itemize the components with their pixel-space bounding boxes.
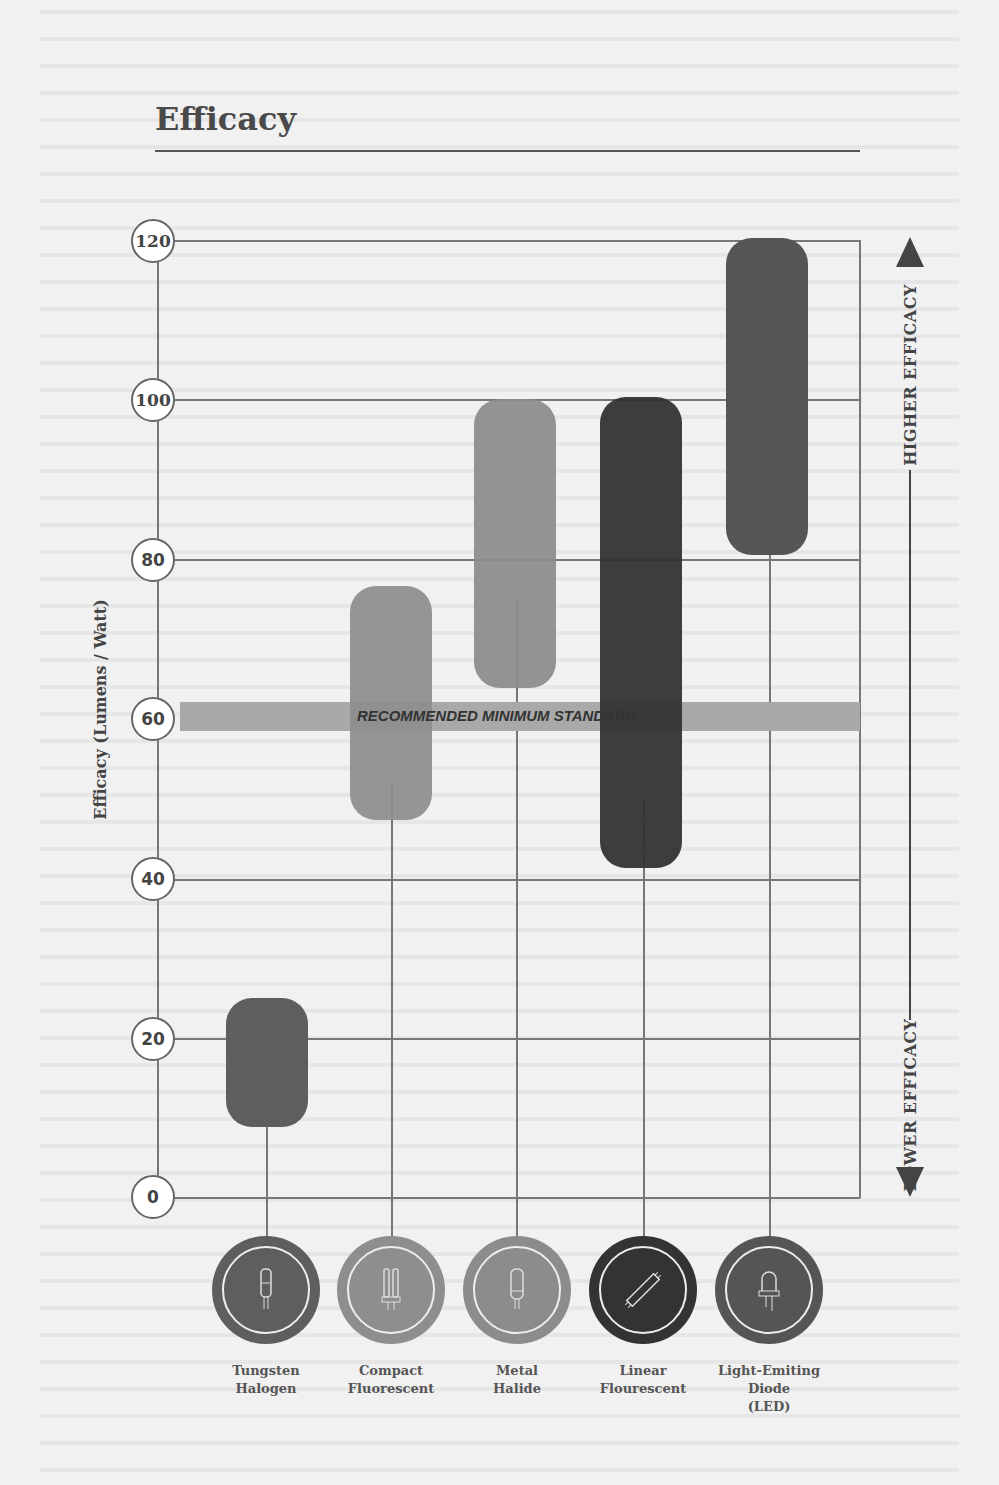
y-tick-60: 60: [131, 697, 175, 741]
bar-led: [726, 238, 808, 555]
y-tick-0: 0: [131, 1175, 175, 1219]
higher-efficacy-label: HIGHER EFFICACY: [901, 284, 920, 466]
page-title: Efficacy: [155, 100, 296, 138]
y-axis-label: Efficacy (Lumens / Watt): [91, 590, 110, 830]
category-line-3: [516, 600, 518, 1245]
category-line-5: [769, 500, 771, 1245]
title-divider: [155, 150, 860, 152]
efficacy-scale-line: [909, 470, 911, 1020]
y-tick-120: 120: [131, 219, 175, 263]
y-tick-100: 100: [131, 378, 175, 422]
bar-compact-fluorescent: [350, 586, 432, 820]
y-tick-80: 80: [131, 538, 175, 582]
halogen-bulb-icon: [212, 1236, 320, 1344]
category-label-metal-halide: MetalHalide: [447, 1362, 587, 1398]
fluorescent-tube-icon: [589, 1236, 697, 1344]
category-line-2: [391, 780, 393, 1245]
category-label-tungsten-halogen: TungstenHalogen: [196, 1362, 336, 1398]
bar-tungsten-halogen: [226, 998, 308, 1127]
bar-metal-halide: [474, 399, 556, 688]
arrow-down-icon: [896, 1167, 924, 1197]
gridline-0: [150, 1197, 860, 1199]
category-label-led: Light-EmitingDiode(LED): [699, 1362, 839, 1416]
gridline-40: [150, 879, 860, 881]
bar-linear-flourescent: [600, 397, 682, 868]
arrow-up-icon: [896, 237, 924, 267]
metal-halide-bulb-icon: [463, 1236, 571, 1344]
recommended-minimum-label: RECOMMENDED MINIMUM STANDARD: [357, 707, 637, 724]
y-tick-40: 40: [131, 857, 175, 901]
category-label-linear-flourescent: LinearFlourescent: [573, 1362, 713, 1398]
lower-efficacy-label: LOWER EFFICACY: [901, 1019, 920, 1192]
y-tick-20: 20: [131, 1017, 175, 1061]
cfl-bulb-icon: [337, 1236, 445, 1344]
category-label-compact-fluorescent: CompactFluorescent: [321, 1362, 461, 1398]
led-icon: [715, 1236, 823, 1344]
